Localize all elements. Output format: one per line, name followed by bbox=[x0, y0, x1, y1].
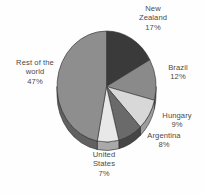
slice-label-rest-of-the-world: Rest of the world 47% bbox=[4, 58, 66, 86]
slice-label-new-zealand-line1: New bbox=[124, 4, 182, 13]
slice-label-united-states-line2: States bbox=[78, 159, 130, 168]
slice-label-brazil: Brazil 12% bbox=[157, 63, 199, 82]
slice-label-new-zealand: New Zealand 17% bbox=[124, 4, 182, 32]
slice-label-united-states: United States 7% bbox=[78, 150, 130, 178]
slice-value-argentina: 8% bbox=[138, 140, 190, 149]
pie-chart-figure: New Zealand 17% Brazil 12% Hungary 9% Ar… bbox=[0, 0, 204, 194]
slice-value-brazil: 12% bbox=[157, 72, 199, 81]
slice-label-argentina: Argentina 8% bbox=[138, 131, 190, 150]
slice-label-brazil-line1: Brazil bbox=[157, 63, 199, 72]
slice-label-argentina-line1: Argentina bbox=[138, 131, 190, 140]
slice-label-hungary: Hungary 9% bbox=[152, 111, 202, 130]
slice-label-new-zealand-line2: Zealand bbox=[124, 13, 182, 22]
slice-value-new-zealand: 17% bbox=[124, 23, 182, 32]
slice-value-rest: 47% bbox=[4, 77, 66, 86]
slice-label-rest-line1: Rest of the bbox=[4, 58, 66, 67]
slice-label-hungary-line1: Hungary bbox=[152, 111, 202, 120]
slice-value-hungary: 9% bbox=[152, 120, 202, 129]
pie-top-face bbox=[57, 31, 156, 142]
slice-value-united-states: 7% bbox=[78, 169, 130, 178]
slice-label-rest-line2: world bbox=[4, 67, 66, 76]
slice-label-united-states-line1: United bbox=[78, 150, 130, 159]
